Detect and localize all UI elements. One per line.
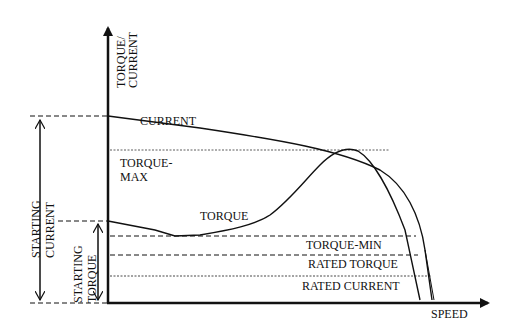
torque-curve bbox=[108, 149, 420, 300]
torque-current-speed-diagram: TORQUE/ CURRENT SPEED CURRENT TORQUE TOR… bbox=[0, 0, 514, 332]
torque-curve-tail bbox=[425, 250, 434, 300]
y-axis-label: TORQUE/ CURRENT bbox=[114, 31, 140, 88]
x-axis-label: SPEED bbox=[431, 307, 468, 321]
torque-max-label: TORQUE- MAX bbox=[120, 156, 175, 184]
current-curve bbox=[108, 116, 432, 300]
starting-current-label: STARTING CURRENT bbox=[29, 197, 57, 258]
diagram-canvas: TORQUE/ CURRENT SPEED CURRENT TORQUE TOR… bbox=[0, 0, 514, 332]
rated-current-label: RATED CURRENT bbox=[302, 279, 400, 293]
current-curve-label: CURRENT bbox=[140, 114, 197, 128]
rated-torque-label: RATED TORQUE bbox=[308, 257, 398, 271]
torque-min-label: TORQUE-MIN bbox=[306, 238, 382, 252]
torque-curve-label: TORQUE bbox=[200, 209, 248, 223]
starting-torque-label: STARTING TORQUE bbox=[71, 242, 99, 303]
